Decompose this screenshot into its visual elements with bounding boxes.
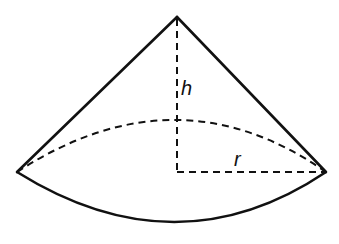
cone-diagram [0,0,339,244]
front-base-arc [17,172,326,222]
left-slant-edge [17,17,177,172]
height-label: h [181,78,192,98]
radius-label: r [234,149,241,169]
right-slant-edge [177,17,326,172]
